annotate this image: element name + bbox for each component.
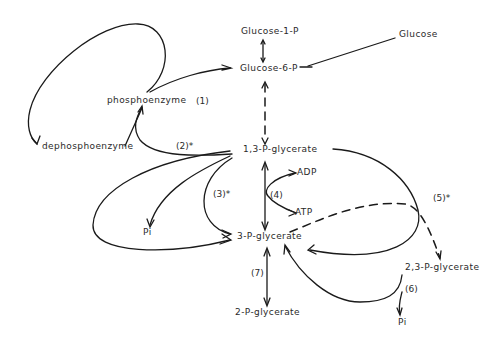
label-glucose-1-p: Glucose-1-P [241, 26, 299, 36]
step-6: (6) [405, 284, 418, 294]
step-7: (7) [251, 268, 264, 278]
label-1-3-p-glycerate: 1,3-P-glycerate [243, 144, 317, 154]
label-2-p-glycerate: 2-P-glycerate [235, 307, 300, 317]
label-adp: ADP [297, 167, 317, 177]
step-3: (3)* [213, 189, 230, 199]
label-phosphoenzyme: phosphoenzyme [107, 95, 186, 105]
step-5: (5)* [433, 193, 450, 203]
step-1: (1) [196, 96, 209, 106]
label-atp: ATP [295, 207, 313, 217]
label-3-p-glycerate: 3-P-glycerate [237, 231, 302, 241]
label-2-3-p-glycerate: 2,3-P-glycerate [405, 262, 479, 272]
label-glucose: Glucose [399, 29, 438, 39]
arrow-13pg-23pg-loop [310, 149, 419, 254]
metabolic-pathway-diagram: 1,3-P-glycerate dashed --> [0, 0, 498, 345]
arrow-phosphoenzyme-dephosphoenzyme [28, 24, 165, 144]
pathway-arrows: 1,3-P-glycerate dashed --> [0, 0, 498, 345]
label-pi-right: Pi [398, 317, 407, 327]
step-2: (2)* [176, 141, 193, 151]
label-pi-left: Pi [143, 227, 152, 237]
label-glucose-6-p: Glucose-6-P [240, 63, 298, 73]
step-4: (4) [270, 190, 283, 200]
label-dephosphoenzyme: dephosphoenzyme [42, 141, 133, 151]
arrow-glucose-g6p [308, 38, 395, 66]
